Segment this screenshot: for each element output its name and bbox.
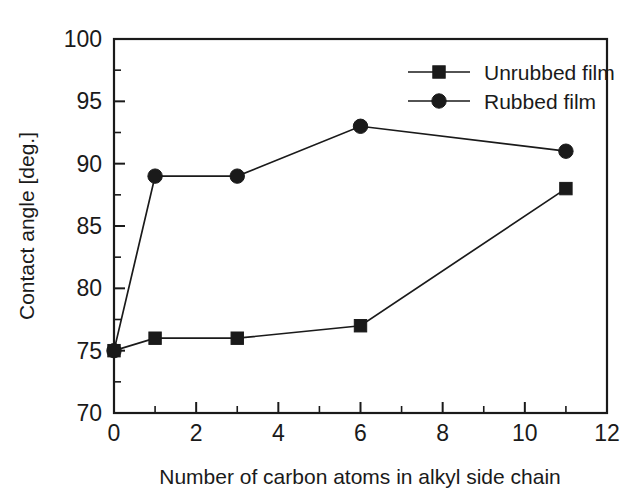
x-tick-label: 6 [354, 420, 367, 446]
data-point-circle [148, 169, 162, 183]
data-point-square [354, 320, 366, 332]
y-tick-label: 75 [76, 338, 102, 364]
y-tick-label: 100 [64, 26, 102, 52]
data-point-circle-legend [432, 94, 446, 108]
chart-figure: 707580859095100 024681012 Unrubbed filmR… [0, 0, 644, 503]
data-point-square [149, 332, 161, 344]
x-axis-title: Number of carbon atoms in alkyl side cha… [159, 465, 561, 488]
y-tick-label: 95 [76, 88, 102, 114]
x-tick-label: 8 [436, 420, 449, 446]
x-tick-label: 12 [594, 420, 620, 446]
y-tick-label: 80 [76, 275, 102, 301]
data-point-circle [107, 343, 121, 357]
data-point-square [560, 182, 572, 194]
legend-label: Unrubbed film [484, 61, 615, 84]
y-axis-title: Contact angle [deg.] [15, 132, 38, 320]
y-tick-label: 90 [76, 151, 102, 177]
data-point-square [231, 332, 243, 344]
data-point-square-legend [433, 66, 445, 78]
legend-label: Rubbed film [484, 90, 596, 113]
x-tick-label: 2 [190, 420, 203, 446]
y-tick-label: 70 [76, 400, 102, 426]
x-tick-label: 0 [108, 420, 121, 446]
x-tick-label: 4 [272, 420, 285, 446]
contact-angle-line-chart: 707580859095100 024681012 Unrubbed filmR… [0, 0, 644, 503]
y-tick-label: 85 [76, 213, 102, 239]
x-tick-label: 10 [512, 420, 538, 446]
data-point-circle [353, 119, 367, 133]
data-point-circle [230, 169, 244, 183]
data-point-circle [559, 144, 573, 158]
